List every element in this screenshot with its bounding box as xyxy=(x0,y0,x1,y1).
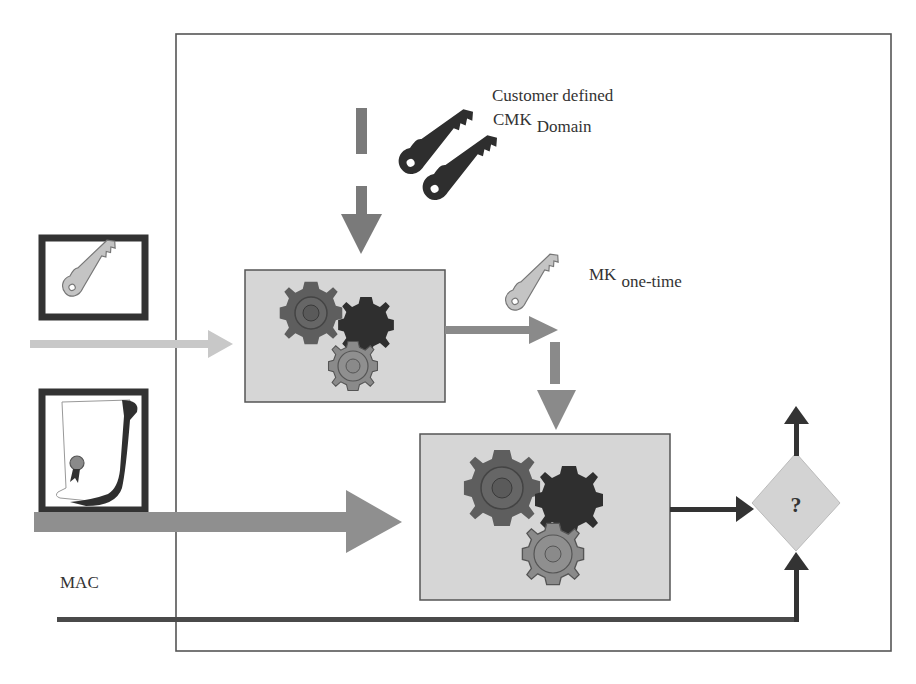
mk-down-arrow xyxy=(537,342,576,430)
mk-key-icon xyxy=(496,251,572,313)
customer-defined-label: Customer defined xyxy=(492,86,613,106)
cmk-down-arrow xyxy=(341,108,382,254)
processor-box-1 xyxy=(245,270,445,402)
mk-label: MK xyxy=(589,265,616,284)
diagram-canvas: ? xyxy=(0,0,916,684)
decision-symbol: ? xyxy=(791,492,802,517)
one-time-subscript: one-time xyxy=(621,272,681,291)
decision-diamond: ? xyxy=(752,453,840,551)
mk-output-arrow xyxy=(445,316,558,344)
decision-up-arrow xyxy=(784,406,809,456)
mk-one-time-label: MKone-time xyxy=(589,265,682,285)
domain-subscript: Domain xyxy=(537,117,592,136)
input-key-box xyxy=(42,237,145,317)
cmk-domain-label: CMKDomain xyxy=(493,110,592,130)
document-box xyxy=(42,392,145,510)
cmk-label: CMK xyxy=(493,110,532,129)
mac-label: MAC xyxy=(60,573,99,593)
processor-box-2 xyxy=(420,434,670,600)
result-arrow xyxy=(670,496,754,522)
key-input-arrow xyxy=(30,330,233,358)
